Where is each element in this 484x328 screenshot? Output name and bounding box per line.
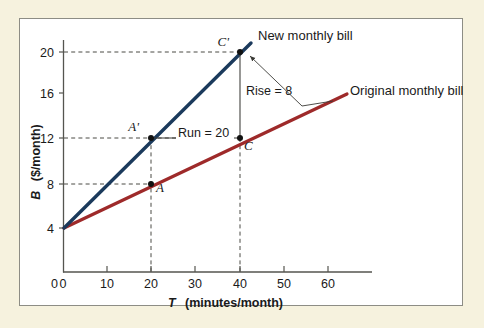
y-tick-label-20: 20 (40, 46, 54, 60)
x-axis-title-symbol: T (168, 296, 177, 310)
y-axis-title: B ($/month) (26, 124, 43, 199)
original-monthly-bill-line (64, 94, 347, 228)
guide-lines (64, 52, 240, 272)
series-label-new-monthly-bill: New monthly bill (258, 28, 353, 43)
x-tick-label-60: 60 (321, 277, 335, 291)
svg-text:T (minutes/month): T (minutes/month) (168, 293, 283, 310)
data-point-a (148, 181, 154, 187)
point-label-a-prime: A' (127, 119, 139, 134)
figure-container: 20 16 12 8 4 0 0 10 20 30 40 50 60 (0, 0, 484, 328)
svg-text:B ($/month): B ($/month) (26, 124, 43, 199)
annotation-run-label: Run = 20 (178, 126, 229, 140)
x-tick-label-30: 30 (188, 277, 202, 291)
data-point-c-prime (237, 49, 243, 55)
x-axis-title-unit: (minutes/month) (185, 296, 283, 310)
y-tick-label-4: 4 (47, 222, 54, 236)
y-axis-title-symbol: B (29, 191, 43, 200)
x-tick-label-40: 40 (233, 277, 247, 291)
data-point-a-prime (148, 135, 154, 141)
annotation-run: Run = 20 (176, 124, 234, 140)
y-tick-label-8: 8 (47, 178, 54, 192)
y-tick-label-0: 0 (51, 277, 58, 291)
x-tick-label-0: 0 (60, 277, 67, 291)
x-tick-label-10: 10 (100, 277, 114, 291)
x-axis-ticks (107, 266, 328, 272)
leader-lines (250, 56, 333, 106)
x-axis-tick-labels: 0 10 20 30 40 50 60 (60, 277, 335, 291)
data-point-c (237, 135, 243, 141)
annotation-rise-label: Rise = 8 (246, 84, 292, 98)
series-original-monthly-bill (64, 94, 347, 228)
x-tick-label-20: 20 (144, 277, 158, 291)
y-tick-label-16: 16 (40, 87, 54, 101)
point-label-c: C (244, 138, 253, 153)
point-label-a: A (155, 180, 164, 195)
x-axis-title: T (minutes/month) (168, 293, 283, 310)
leader-to-c-prime (250, 56, 302, 106)
chart-svg: 20 16 12 8 4 0 0 10 20 30 40 50 60 (0, 0, 484, 328)
series-label-original-monthly-bill: Original monthly bill (350, 83, 464, 98)
point-label-c-prime: C' (218, 34, 230, 49)
x-tick-label-50: 50 (277, 277, 291, 291)
y-axis-title-unit: ($/month) (29, 124, 43, 181)
